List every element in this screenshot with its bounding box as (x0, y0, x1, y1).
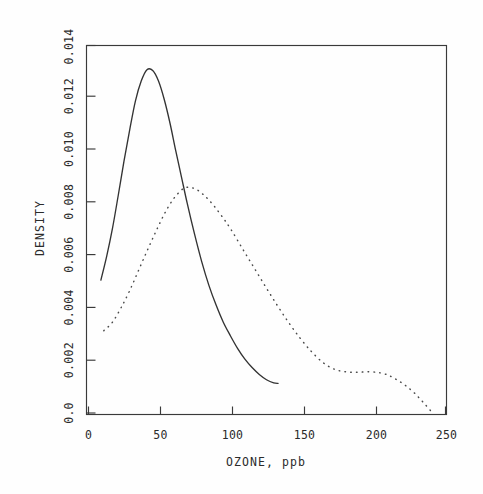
series-solid-curve (101, 69, 278, 384)
plot-frame (87, 46, 447, 415)
series-dotted-curve (104, 187, 432, 412)
y-tick-label-0.010: 0.010 (62, 131, 76, 167)
y-axis-title: DENSITY (33, 200, 47, 256)
data-curves (101, 69, 432, 413)
x-axis-ticks (89, 407, 446, 415)
ozone-density-chart: 0 50 100 150 200 250 0.0 0.002 0.004 0.0… (0, 0, 483, 494)
y-tick-label-0.006: 0.006 (62, 237, 76, 273)
y-axis-tick-labels: 0.0 0.002 0.004 0.006 0.008 0.010 0.012 … (62, 28, 76, 423)
y-tick-label-0.002: 0.002 (62, 342, 76, 378)
y-tick-label-0.008: 0.008 (62, 184, 76, 220)
x-tick-label-0: 0 (85, 428, 92, 442)
x-tick-label-250: 250 (436, 428, 458, 442)
x-tick-label-150: 150 (294, 428, 316, 442)
x-axis-title: OZONE, ppb (226, 455, 306, 469)
figure-canvas: 0 50 100 150 200 250 0.0 0.002 0.004 0.0… (0, 0, 483, 494)
x-axis-tick-labels: 0 50 100 150 200 250 (85, 428, 457, 442)
y-tick-label-0.014: 0.014 (62, 28, 76, 64)
y-tick-label-0.004: 0.004 (62, 289, 76, 325)
y-tick-label-0.012: 0.012 (62, 78, 76, 114)
y-tick-label-0: 0.0 (62, 402, 76, 424)
x-tick-label-200: 200 (366, 428, 388, 442)
x-tick-label-50: 50 (153, 428, 167, 442)
y-axis-ticks (87, 46, 96, 414)
x-tick-label-100: 100 (222, 428, 244, 442)
